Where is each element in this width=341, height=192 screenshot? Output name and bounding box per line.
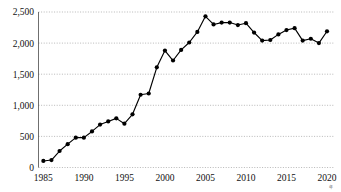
data-point-2020 <box>325 29 329 33</box>
y-tick-label-1500: 1,500 <box>13 70 35 80</box>
x-tick-label-2020: 2020 <box>318 173 337 183</box>
data-point-1993 <box>106 119 110 123</box>
chart-canvas: 05001,0001,5002,0002,500 198519901995200… <box>0 0 341 192</box>
data-point-1996 <box>130 112 134 116</box>
y-tick-label-2500: 2,500 <box>13 7 35 17</box>
data-point-2011 <box>252 30 256 34</box>
data-point-1987 <box>57 149 61 153</box>
data-point-2002 <box>179 48 183 52</box>
data-point-1998 <box>147 91 151 95</box>
data-point-2017 <box>301 39 305 43</box>
x-tick-label-1995: 1995 <box>115 173 134 183</box>
data-point-1994 <box>114 116 118 120</box>
data-point-2007 <box>220 20 224 24</box>
x-tick-label-1985: 1985 <box>34 173 53 183</box>
data-point-2012 <box>260 39 264 43</box>
data-point-2015 <box>284 28 288 32</box>
y-tick-label-0: 0 <box>29 163 34 173</box>
x-tick-label-1990: 1990 <box>74 173 93 183</box>
data-point-2010 <box>244 21 248 25</box>
x-axis-unit-label: 年 <box>329 184 333 190</box>
x-tick-label-2015: 2015 <box>277 173 296 183</box>
data-point-2004 <box>195 30 199 34</box>
data-point-1988 <box>66 142 70 146</box>
data-point-1991 <box>90 129 94 133</box>
data-point-1995 <box>122 122 126 126</box>
data-point-2008 <box>228 20 232 24</box>
y-tick-label-1000: 1,000 <box>13 101 35 111</box>
data-point-2018 <box>309 37 313 41</box>
data-point-2003 <box>187 40 191 44</box>
data-point-2000 <box>163 48 167 52</box>
x-tick-label-2000: 2000 <box>155 173 174 183</box>
data-point-1999 <box>155 65 159 69</box>
data-point-2016 <box>293 26 297 30</box>
x-tick-label-2005: 2005 <box>196 173 215 183</box>
data-point-1997 <box>139 93 143 97</box>
y-tick-label-500: 500 <box>20 132 35 142</box>
data-point-2006 <box>211 22 215 26</box>
data-point-1985 <box>41 159 45 163</box>
data-point-2014 <box>276 32 280 36</box>
data-point-2009 <box>236 23 240 27</box>
line-chart: 05001,0001,5002,0002,500 198519901995200… <box>0 0 341 192</box>
data-point-1989 <box>74 136 78 140</box>
data-point-1992 <box>98 122 102 126</box>
data-point-2019 <box>317 41 321 45</box>
data-point-1986 <box>49 158 53 162</box>
data-point-1990 <box>82 136 86 140</box>
data-point-2001 <box>171 58 175 62</box>
x-tick-label-2010: 2010 <box>236 173 255 183</box>
y-tick-label-2000: 2,000 <box>13 39 35 49</box>
data-point-2005 <box>203 14 207 18</box>
data-point-2013 <box>268 38 272 42</box>
